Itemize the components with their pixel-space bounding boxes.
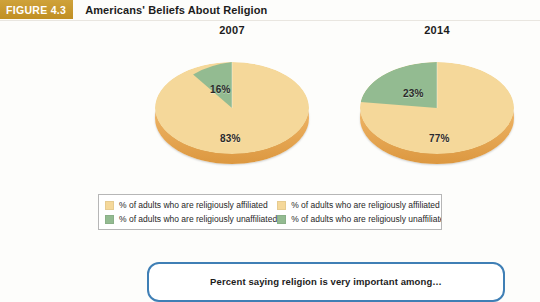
bottom-callout-box: Percent saying religion is very importan… <box>147 262 505 302</box>
legend-item: % of adults who are religiously unaffili… <box>105 214 277 225</box>
figure-header: FIGURE 4.3 Americans' Beliefs About Reli… <box>0 0 540 20</box>
legend-item: % of adults who are religiously affiliat… <box>105 200 277 211</box>
bottom-callout-title: Percent saying religion is very importan… <box>149 276 503 287</box>
legend-swatch-unaffiliated-icon <box>105 215 114 224</box>
legend-label-unaffiliated: % of adults who are religiously unaffili… <box>119 214 277 225</box>
legend-item: % of adults who are religiously affiliat… <box>277 200 442 211</box>
legend-swatch-affiliated-icon <box>277 201 286 210</box>
pie-year-label-2007: 2007 <box>142 22 322 38</box>
legend-swatch-affiliated-icon <box>105 201 114 210</box>
legend-item: % of adults who are religiously unaffili… <box>277 214 442 225</box>
header-divider <box>0 20 540 21</box>
pie-slice-label-unaffiliated-2014: 23% <box>403 88 424 99</box>
pie-slice-label-affiliated-2014: 77% <box>429 133 450 144</box>
pie-slice-label-affiliated-2007: 83% <box>220 133 241 144</box>
legend-label-unaffiliated: % of adults who are religiously unaffili… <box>291 214 442 225</box>
figure-title: Americans' Beliefs About Religion <box>73 0 267 20</box>
pie-chart-2007: 2007 16% 83% <box>142 22 322 178</box>
legend-column-left: % of adults who are religiously affiliat… <box>105 199 277 225</box>
legend-label-affiliated: % of adults who are religiously affiliat… <box>119 200 268 211</box>
pie-stage-2007: 16% 83% <box>142 38 322 178</box>
figure-number-tag: FIGURE 4.3 <box>0 0 73 19</box>
legend-column-right: % of adults who are religiously affiliat… <box>277 199 442 225</box>
pie-year-label-2014: 2014 <box>347 22 527 38</box>
chart-legend: % of adults who are religiously affiliat… <box>98 194 442 230</box>
legend-swatch-unaffiliated-icon <box>277 215 286 224</box>
pie-chart-2014: 2014 23% 77% <box>347 22 527 178</box>
pie-slice-label-unaffiliated-2007: 16% <box>210 84 231 95</box>
charts-area: 2007 16% 83% 2014 <box>0 22 540 187</box>
legend-label-affiliated: % of adults who are religiously affiliat… <box>291 200 440 211</box>
pie-stage-2014: 23% 77% <box>347 38 527 178</box>
